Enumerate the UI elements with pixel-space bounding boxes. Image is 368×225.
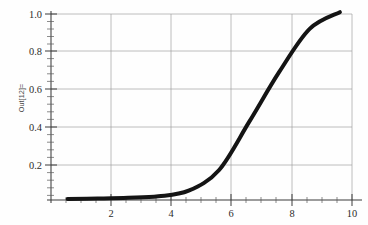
y-axis-label: Out[12]=: [17, 84, 26, 113]
x-tick-label-10: 10: [347, 208, 357, 219]
y-tick-label-0.8: 0.8: [29, 46, 42, 57]
x-tick-label-6: 6: [228, 208, 233, 219]
y-tick-label-0.2: 0.2: [29, 160, 42, 171]
x-tick-label-2: 2: [108, 208, 113, 219]
x-tick-label-4: 4: [168, 208, 174, 219]
y-tick-label-0.6: 0.6: [29, 84, 42, 95]
x-tick-label-8: 8: [289, 208, 294, 219]
y-tick-label-0.4: 0.4: [29, 122, 43, 133]
plot-figure: 1.0 0.8 0.6 0.4 0.2 2 4 6 8 10 Out[12]=: [0, 0, 368, 225]
y-tick-label-1.0: 1.0: [29, 9, 42, 20]
plot-canvas: 1.0 0.8 0.6 0.4 0.2 2 4 6 8 10 Out[12]=: [0, 0, 368, 225]
